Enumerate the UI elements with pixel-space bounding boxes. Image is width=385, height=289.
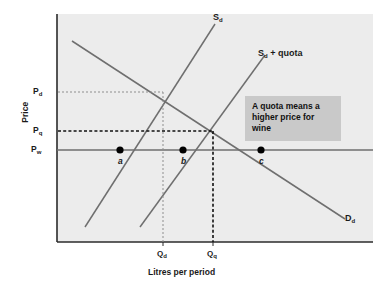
quantity-label-qq: Qq <box>207 250 217 258</box>
quota-callout-box: A quota means a higher price for wine <box>245 96 341 141</box>
quantity-label-qd-sub: d <box>163 253 167 259</box>
price-label-pd-main: P <box>33 86 39 96</box>
demand-domestic-label-sub: d <box>352 218 356 224</box>
quantity-label-qq-sub: q <box>213 253 217 259</box>
price-label-pq: Pq <box>33 126 42 135</box>
price-label-pd: Pd <box>33 87 42 96</box>
demand-domestic-label: Dd <box>345 214 355 223</box>
supply-domestic-curve <box>85 24 215 227</box>
point-c-marker <box>257 146 264 153</box>
point-a-marker <box>116 146 123 153</box>
price-label-pw: Pw <box>31 145 41 154</box>
supply-quota-curve <box>140 55 265 227</box>
x-axis-title: Litres per period <box>148 268 215 277</box>
supply-domestic-label-sub: d <box>219 17 223 23</box>
price-label-pq-main: P <box>33 125 39 135</box>
point-label-a: a <box>118 157 123 166</box>
point-b-marker <box>179 146 186 153</box>
y-axis-title: Price <box>21 82 30 142</box>
chart-vector-layer <box>0 0 385 289</box>
price-label-pw-sub: w <box>37 149 42 155</box>
demand-domestic-label-main: D <box>345 213 352 223</box>
supply-domestic-label: Sd <box>213 13 223 22</box>
point-label-b: b <box>181 157 186 166</box>
quota-wine-market-diagram: Price Litres per period Sd Sd + quota Dd… <box>0 0 385 289</box>
point-label-c: c <box>259 157 264 166</box>
supply-quota-label-sub: d <box>264 53 268 59</box>
price-label-pq-sub: q <box>39 130 43 136</box>
supply-quota-label-suffix: + quota <box>268 48 303 58</box>
price-label-pd-sub: d <box>39 91 43 97</box>
supply-quota-label: Sd + quota <box>258 49 302 58</box>
price-label-pw-main: P <box>31 144 37 154</box>
quantity-label-qd: Qd <box>157 250 167 258</box>
